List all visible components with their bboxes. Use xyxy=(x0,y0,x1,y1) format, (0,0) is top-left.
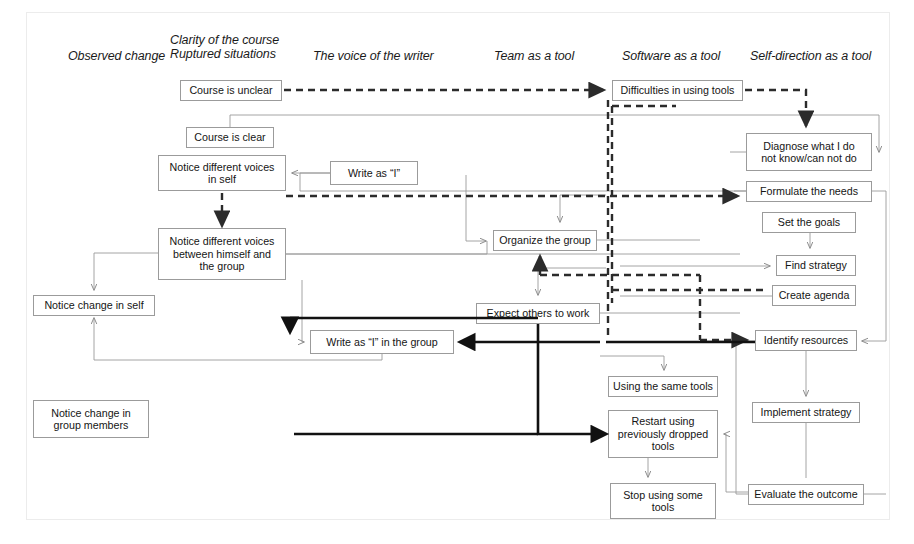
node-label: Formulate the needs xyxy=(760,185,858,197)
node-restart-using-previously-dropped-tools[interactable]: Restart using previously dropped tools xyxy=(608,410,718,458)
node-label: Organize the group xyxy=(499,234,591,246)
node-label: Expect others to work xyxy=(487,307,590,319)
node-label: Implement strategy xyxy=(761,406,852,418)
node-label: Stop using some tools xyxy=(623,489,703,514)
node-label: Notice change in group members xyxy=(51,407,131,432)
node-course-is-unclear[interactable]: Course is unclear xyxy=(180,80,282,101)
node-implement-strategy[interactable]: Implement strategy xyxy=(752,402,860,423)
node-organize-the-group[interactable]: Organize the group xyxy=(493,230,597,251)
node-label: Notice different voices in self xyxy=(170,161,275,186)
node-set-the-goals[interactable]: Set the goals xyxy=(762,212,856,233)
node-label: Create agenda xyxy=(779,289,850,301)
node-identify-resources[interactable]: Identify resources xyxy=(755,330,857,351)
node-difficulties-using-tools[interactable]: Difficulties in using tools xyxy=(612,80,743,101)
node-using-the-same-tools[interactable]: Using the same tools xyxy=(608,376,718,397)
node-expect-others-to-work[interactable]: Expect others to work xyxy=(476,303,600,324)
node-label: Difficulties in using tools xyxy=(621,84,735,96)
node-notice-voices-in-self[interactable]: Notice different voices in self xyxy=(158,155,286,191)
node-label: Set the goals xyxy=(778,216,840,228)
node-label: Notice change in self xyxy=(44,299,143,311)
node-write-as-i[interactable]: Write as “I” xyxy=(330,161,418,185)
node-create-agenda[interactable]: Create agenda xyxy=(772,285,856,306)
node-evaluate-the-outcome[interactable]: Evaluate the outcome xyxy=(748,484,864,505)
node-notice-voices-between-himself-and-group[interactable]: Notice different voices between himself … xyxy=(158,228,286,280)
node-diagnose-what-i-do[interactable]: Diagnose what I do not know/can not do xyxy=(746,133,872,171)
node-formulate-the-needs[interactable]: Formulate the needs xyxy=(746,181,872,202)
node-find-strategy[interactable]: Find strategy xyxy=(776,255,856,276)
node-label: Evaluate the outcome xyxy=(754,488,857,500)
node-label: Diagnose what I do not know/can not do xyxy=(761,140,857,165)
node-label: Course is unclear xyxy=(189,84,272,96)
node-label: Write as “I” xyxy=(348,167,400,179)
node-course-is-clear[interactable]: Course is clear xyxy=(186,127,274,148)
node-stop-using-some-tools[interactable]: Stop using some tools xyxy=(610,483,716,519)
node-write-as-i-in-the-group[interactable]: Write as “I” in the group xyxy=(310,330,454,354)
node-notice-change-in-group-members[interactable]: Notice change in group members xyxy=(33,400,149,438)
node-label: Write as “I” in the group xyxy=(326,336,437,348)
node-notice-change-in-self[interactable]: Notice change in self xyxy=(33,295,155,316)
node-label: Identify resources xyxy=(764,334,848,346)
node-label: Using the same tools xyxy=(613,380,713,392)
node-label: Restart using previously dropped tools xyxy=(618,415,708,452)
node-label: Notice different voices between himself … xyxy=(170,235,275,272)
node-label: Course is clear xyxy=(194,131,265,143)
diagram-canvas: Course is unclear Difficulties in using … xyxy=(0,0,914,544)
node-label: Find strategy xyxy=(785,259,847,271)
